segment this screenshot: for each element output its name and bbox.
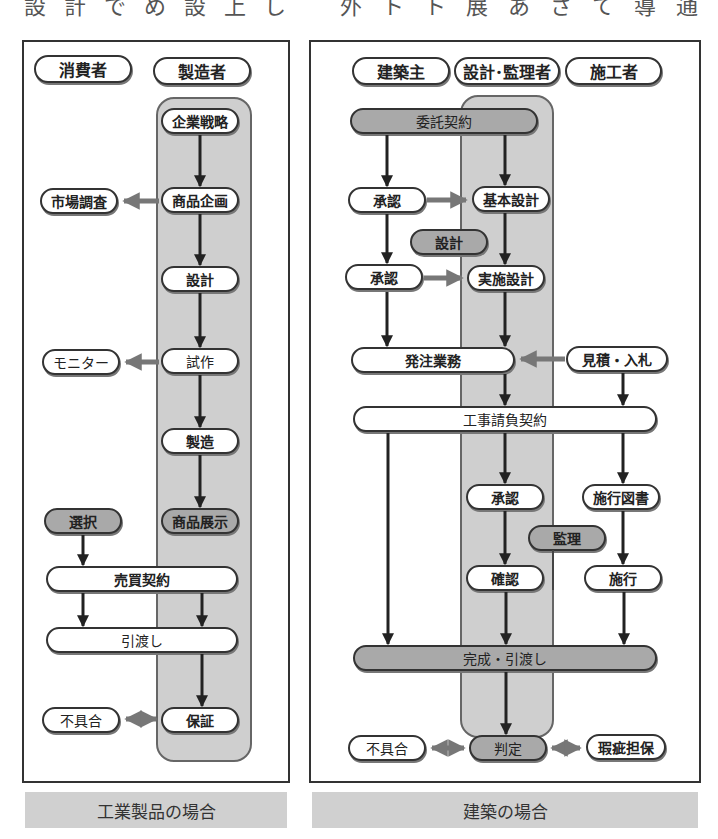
node-construction-drawings: 施行図書: [582, 484, 660, 510]
char: 導: [634, 0, 656, 20]
char: 上: [224, 0, 246, 20]
node-product-planning: 商品企画: [161, 187, 239, 213]
node-construction: 施行: [584, 565, 662, 591]
char: ト: [382, 0, 404, 20]
node-defect-right: 不具合: [348, 735, 426, 761]
char: 外: [340, 0, 362, 20]
char: あ: [508, 0, 530, 20]
caption-industrial-products: 工業製品の場合: [25, 792, 287, 828]
node-manufacturing: 製造: [161, 428, 239, 454]
node-approval-2: 承認: [345, 264, 423, 290]
char: め: [144, 0, 166, 20]
node-design-phase: 設計: [410, 229, 488, 255]
node-defect: 不具合: [42, 707, 120, 733]
header-consumer: 消費者: [34, 55, 132, 83]
node-sales-contract: 売買契約: [46, 566, 238, 592]
node-defect-warranty: 瑕疵担保: [586, 734, 666, 760]
char: さ: [550, 0, 572, 20]
node-selection: 選択: [44, 508, 122, 534]
char: で: [104, 0, 126, 20]
char: 通: [676, 0, 698, 20]
header-manufacturer: 製造者: [153, 57, 251, 85]
node-ordering: 発注業務: [351, 347, 515, 373]
char: 計: [64, 0, 86, 20]
char: ト: [424, 0, 446, 20]
node-basic-design: 基本設計: [472, 186, 550, 212]
node-confirmation: 確認: [466, 565, 544, 591]
header-owner: 建築主: [352, 57, 450, 85]
node-detailed-design: 実施設計: [467, 265, 545, 291]
node-product-display: 商品展示: [161, 508, 239, 534]
node-warranty: 保証: [161, 707, 239, 733]
node-market-research: 市場調査: [40, 188, 118, 214]
node-completion-delivery: 完成・引渡し: [353, 645, 657, 671]
node-delivery: 引渡し: [46, 627, 238, 653]
node-prototype: 試作: [161, 348, 239, 374]
node-monitor: モニター: [42, 349, 120, 375]
node-design: 設計: [161, 266, 239, 292]
char: 設: [24, 0, 46, 20]
char: 設: [184, 0, 206, 20]
node-judgment: 判定: [469, 735, 547, 761]
node-estimate-bid: 見積・入札: [566, 346, 668, 372]
char: 展: [466, 0, 488, 20]
cropped-body-text: 設 計 で め 設 上 し 外 ト ト 展 あ さ て 導 通: [0, 0, 718, 14]
header-contractor: 施工者: [565, 57, 662, 85]
node-construction-contract: 工事請負契約: [353, 406, 657, 432]
node-supervision: 監理: [528, 525, 606, 551]
char: て: [592, 0, 614, 20]
caption-architecture: 建築の場合: [312, 792, 698, 828]
node-commission-contract: 委託契約: [350, 108, 538, 134]
node-approval-1: 承認: [348, 187, 426, 213]
node-approval-3: 承認: [466, 484, 544, 510]
header-designer-supervisor: 設計･監理者: [454, 57, 560, 85]
char: し: [264, 0, 286, 20]
node-corporate-strategy: 企業戦略: [161, 108, 239, 134]
